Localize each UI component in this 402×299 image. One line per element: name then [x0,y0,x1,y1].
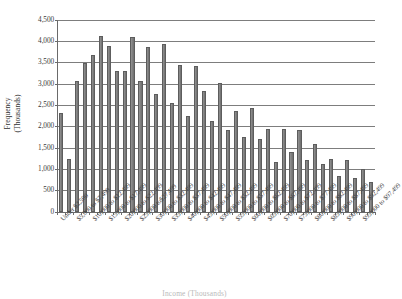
bar [210,121,214,211]
y-axis-tick-label: 1,000 [26,165,54,173]
bar [170,103,174,212]
bar [369,182,373,211]
x-axis-tick-mark [184,212,185,216]
bar [186,116,190,211]
x-axis-tick-mark [232,212,233,216]
bar [130,37,134,212]
x-axis-tick-mark [216,212,217,216]
y-axis-tick-label: 2,500 [26,101,54,109]
bar [345,160,349,211]
x-axis-tick-mark [343,212,344,216]
y-axis-tick-label: 500 [26,186,54,194]
x-axis-tick-mark [152,212,153,216]
bar [138,81,142,211]
bar [67,159,71,211]
bar [297,130,301,212]
x-axis-tick-mark [240,212,241,216]
bar [266,129,270,211]
x-axis-tick-mark [89,212,90,216]
x-axis-tick-marks [57,212,375,216]
x-axis-tick-mark [144,212,145,216]
x-axis-tick-mark [192,212,193,216]
bar [250,108,254,212]
bar [123,71,127,211]
x-axis-title: Income (Thousands) [0,289,389,298]
x-axis-tick-mark [351,212,352,216]
x-axis-tick-mark [367,212,368,216]
bar [75,81,79,211]
x-axis-tick-mark [375,212,376,216]
x-axis-tick-mark [272,212,273,216]
y-axis-tick-label: 4,000 [26,37,54,45]
x-axis-tick-mark [224,212,225,216]
x-axis-tick-mark [248,212,249,216]
x-axis-tick-mark [97,212,98,216]
bar [305,160,309,211]
bar [353,178,357,212]
bar [91,55,95,212]
x-axis-tick-mark [296,212,297,216]
x-axis-tick-mark [168,212,169,216]
bar-series [57,20,375,212]
y-axis-tick-labels: 4,5004,0003,5003,0002,5002,0001,5001,000… [26,14,54,212]
x-axis-tick-mark [311,212,312,216]
bar [234,111,238,212]
bar [83,63,87,212]
x-axis-tick-mark [57,212,58,216]
x-axis-tick-mark [359,212,360,216]
bar [162,44,166,211]
y-axis-tick-label: 1,500 [26,144,54,152]
y-axis-tick-label: 2,000 [26,122,54,130]
x-axis-tick-mark [105,212,106,216]
x-axis-tick-mark [121,212,122,216]
x-axis-tick-mark [208,212,209,216]
bar [274,162,278,212]
x-axis-tick-mark [81,212,82,216]
y-axis-tick-label: 3,500 [26,58,54,66]
x-axis-tick-mark [73,212,74,216]
x-axis-tick-mark [200,212,201,216]
bar [226,130,230,211]
y-axis-tick-label: 4,500 [26,16,54,24]
x-axis-tick-mark [303,212,304,216]
x-axis-tick-mark [288,212,289,216]
bar [59,113,63,211]
y-axis-tick-label: 0 [26,208,54,216]
bar [202,91,206,211]
y-axis-title: Frequency (Thousands) [3,71,22,157]
bar [337,176,341,211]
x-axis-tick-mark [256,212,257,216]
bar [115,71,119,212]
x-axis-tick-mark [264,212,265,216]
x-axis-tick-mark [137,212,138,216]
x-axis-tick-mark [65,212,66,216]
bar [289,152,293,212]
x-axis-tick-mark [129,212,130,216]
y-axis-tick-label: 3,000 [26,80,54,88]
bar [99,36,103,212]
bar [361,169,365,211]
x-axis-tick-mark [160,212,161,216]
x-axis-tick-mark [280,212,281,216]
bar [282,129,286,212]
bar [154,94,158,212]
bar [321,164,325,212]
bar [178,65,182,212]
x-axis-tick-mark [319,212,320,216]
bar [242,137,246,211]
plot-area [57,20,375,212]
bar [146,47,150,211]
x-axis-tick-mark [335,212,336,216]
x-axis-tick-mark [327,212,328,216]
bar [107,46,111,212]
bar [194,66,198,212]
x-axis-tick-mark [113,212,114,216]
bar [258,139,262,212]
x-axis-tick-mark [176,212,177,216]
bar [218,83,222,212]
bar [329,159,333,211]
bar [313,144,317,211]
